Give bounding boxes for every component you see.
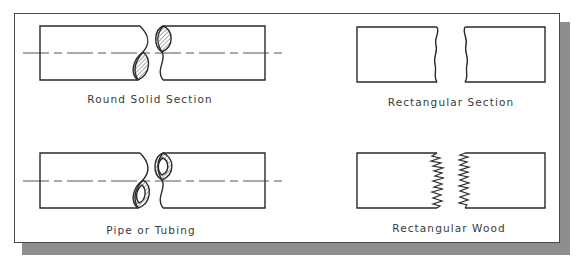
- left-wavy-break: [435, 27, 438, 82]
- right-jagged-break: [459, 153, 469, 208]
- rectangular-wood-label: Rectangular Wood: [392, 222, 505, 234]
- pipe-tubing-figure: [23, 153, 283, 208]
- round-solid-section-figure: [23, 26, 283, 80]
- right-hatched-lobe: [156, 26, 171, 52]
- rectangular-section-label: Rectangular Section: [388, 96, 515, 108]
- left-wood-piece: [357, 153, 437, 208]
- left-jagged-break: [431, 153, 444, 208]
- right-pipe-piece: [163, 153, 265, 208]
- right-rect-piece: [465, 27, 545, 82]
- right-wood-piece: [465, 153, 545, 208]
- pipe-tubing-label: Pipe or Tubing: [106, 224, 195, 236]
- round-solid-section-label: Round Solid Section: [87, 93, 212, 105]
- rectangular-wood-figure: [357, 153, 545, 208]
- left-rect-piece: [357, 27, 437, 82]
- left-hatched-lobe: [133, 52, 148, 80]
- left-pipe-piece: [40, 153, 140, 208]
- rectangular-section-figure: [357, 27, 545, 82]
- right-wavy-break: [464, 27, 467, 82]
